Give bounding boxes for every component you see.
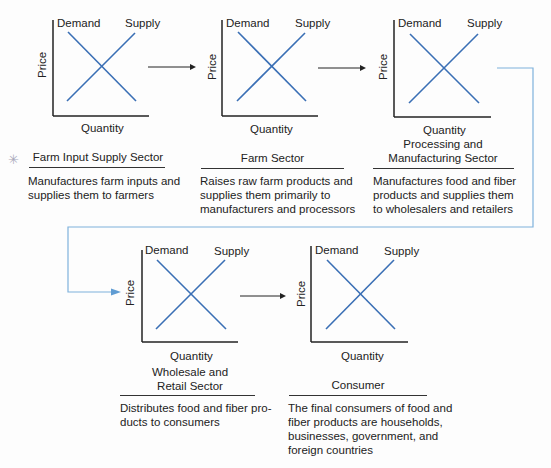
divider: [201, 168, 344, 169]
sector-description-farm: Raises raw farm products and supplies th…: [200, 174, 370, 216]
sector-description-farm-input: Manufactures farm inputs and supplies th…: [28, 174, 188, 202]
supply-demand-chart-consumer: [311, 246, 451, 356]
demand-label: Demand: [315, 244, 358, 256]
desc-line: The final consumers of food and: [288, 401, 468, 415]
sector-title-farm-input: Farm Input Supply Sector: [28, 150, 168, 164]
sector-description-consumer: The final consumers of food and fiber pr…: [288, 401, 468, 457]
supply-label: Supply: [384, 245, 419, 257]
sector-title-text: Farm Input Supply Sector: [33, 151, 163, 163]
chart-lines-icon: [311, 246, 451, 346]
divider: [29, 167, 165, 168]
sector-title-text: Farm Sector: [241, 152, 304, 164]
desc-line: Distributes food and fiber pro-: [120, 401, 290, 415]
desc-line: Manufactures farm inputs and: [28, 174, 188, 188]
desc-line: businesses, government, and: [288, 429, 468, 443]
price-axis-label: Price: [124, 280, 136, 306]
desc-line: ducts to consumers: [120, 415, 290, 429]
supply-label: Supply: [214, 245, 249, 257]
connector-arrow-icon: [0, 0, 551, 468]
sector-title-text: Consumer: [331, 379, 384, 391]
desc-line: supplies them primarily to: [200, 188, 370, 202]
sector-title-text: Retail Sector: [120, 379, 260, 393]
sector-title-text: Manufacturing Sector: [373, 151, 513, 165]
desc-line: manufacturers and processors: [200, 202, 370, 216]
desc-line: Raises raw farm products and: [200, 174, 370, 188]
desc-line: to wholesalers and retailers: [373, 202, 543, 216]
flow-arrow-icon: [240, 291, 290, 301]
divider: [289, 395, 427, 396]
sector-title-text: Processing and: [373, 137, 513, 151]
desc-line: supplies them to farmers: [28, 188, 188, 202]
demand-label: Demand: [145, 244, 188, 256]
quantity-axis-label: Quantity: [170, 350, 213, 362]
quantity-axis-label: Quantity: [341, 350, 384, 362]
divider: [120, 395, 255, 396]
price-axis-label: Price: [295, 281, 307, 307]
sector-description-processing: Manufactures food and fiber products and…: [373, 174, 543, 216]
desc-line: foreign countries: [288, 443, 468, 457]
desc-line: fiber products are households,: [288, 415, 468, 429]
sector-title-processing: Processing and Manufacturing Sector: [373, 137, 513, 165]
sector-title-wholesale: Wholesale and Retail Sector: [120, 365, 260, 393]
sector-title-consumer: Consumer: [288, 378, 428, 392]
sector-title-farm: Farm Sector: [200, 151, 345, 165]
sector-description-wholesale: Distributes food and fiber pro- ducts to…: [120, 401, 290, 429]
sector-title-text: Wholesale and: [120, 365, 260, 379]
supply-demand-chart-wholesale: [141, 250, 281, 360]
divider: [373, 168, 514, 169]
desc-line: products and supplies them: [373, 188, 543, 202]
desc-line: Manufactures food and fiber: [373, 174, 543, 188]
